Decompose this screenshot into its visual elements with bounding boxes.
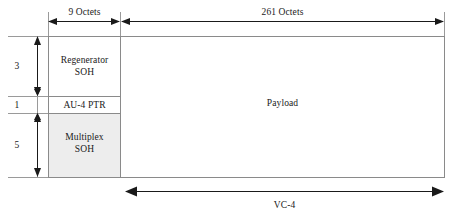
dimension-label-vc4: VC-4	[125, 199, 444, 211]
stm1-frame-diagram: Regenerator SOH AU-4 PTR Multiplex SOH P…	[0, 0, 463, 221]
dimension-arrow-vc4	[0, 0, 463, 221]
